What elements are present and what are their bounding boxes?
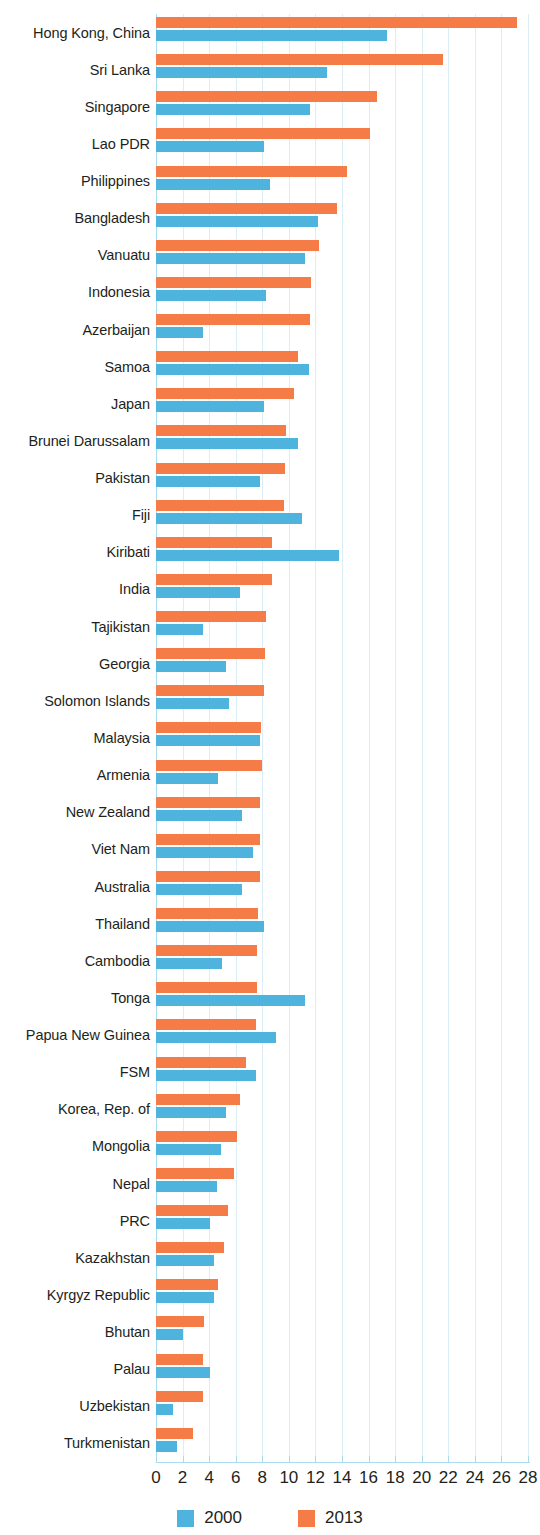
bar-2013 xyxy=(156,982,257,993)
x-tick-label: 10 xyxy=(279,1467,298,1489)
category-label: Vanuatu xyxy=(0,247,150,263)
bar-2013 xyxy=(156,91,377,102)
x-axis-line xyxy=(156,1462,530,1463)
category-label: Palau xyxy=(0,1361,150,1377)
category-label: Singapore xyxy=(0,99,150,115)
horizontal-bar-chart: Hong Kong, ChinaSri LankaSingaporeLao PD… xyxy=(0,0,540,1535)
bar-group xyxy=(156,719,528,756)
bar-2013 xyxy=(156,277,311,288)
x-tick-label: 22 xyxy=(439,1467,458,1489)
bar-group xyxy=(156,274,528,311)
bar-group xyxy=(156,348,528,385)
legend-swatch-2013-icon xyxy=(298,1510,315,1527)
bar-2013 xyxy=(156,685,264,696)
category-label: Kazakhstan xyxy=(0,1250,150,1266)
bar-group xyxy=(156,1091,528,1128)
bar-group xyxy=(156,868,528,905)
bar-group xyxy=(156,125,528,162)
bar-group xyxy=(156,1313,528,1350)
bar-2000 xyxy=(156,550,339,561)
bar-2000 xyxy=(156,698,229,709)
bar-2013 xyxy=(156,1242,224,1253)
bar-group xyxy=(156,385,528,422)
bar-group xyxy=(156,1016,528,1053)
bar-2013 xyxy=(156,1279,218,1290)
bar-2013 xyxy=(156,537,272,548)
bar-2000 xyxy=(156,1032,276,1043)
bar-2013 xyxy=(156,166,347,177)
bar-2013 xyxy=(156,1316,204,1327)
bar-2000 xyxy=(156,1367,210,1378)
category-label: Mongolia xyxy=(0,1138,150,1154)
bar-group xyxy=(156,1165,528,1202)
bar-2000 xyxy=(156,253,305,264)
category-axis-labels: Hong Kong, ChinaSri LankaSingaporeLao PD… xyxy=(0,14,150,1462)
category-label: Azerbaijan xyxy=(0,322,150,338)
bar-group xyxy=(156,88,528,125)
bar-group xyxy=(156,942,528,979)
category-label: Indonesia xyxy=(0,284,150,300)
category-label: Bangladesh xyxy=(0,210,150,226)
bar-2000 xyxy=(156,921,264,932)
bar-2013 xyxy=(156,1354,203,1365)
category-label: Brunei Darussalam xyxy=(0,433,150,449)
bar-2013 xyxy=(156,871,260,882)
bar-group xyxy=(156,311,528,348)
bar-2000 xyxy=(156,1329,183,1340)
category-label: Pakistan xyxy=(0,470,150,486)
bar-2000 xyxy=(156,513,302,524)
bar-2000 xyxy=(156,773,218,784)
bar-2000 xyxy=(156,30,387,41)
bar-2013 xyxy=(156,1094,240,1105)
category-label: Samoa xyxy=(0,359,150,375)
bar-2013 xyxy=(156,611,266,622)
bar-group xyxy=(156,645,528,682)
category-label: PRC xyxy=(0,1213,150,1229)
bar-group xyxy=(156,794,528,831)
category-label: Viet Nam xyxy=(0,841,150,857)
bar-group xyxy=(156,608,528,645)
bar-2000 xyxy=(156,1070,256,1081)
bar-group xyxy=(156,422,528,459)
bar-group xyxy=(156,1388,528,1425)
x-tick-label: 28 xyxy=(519,1467,538,1489)
bar-2013 xyxy=(156,722,261,733)
bar-2000 xyxy=(156,438,298,449)
category-label: Nepal xyxy=(0,1176,150,1192)
bar-group xyxy=(156,1202,528,1239)
bar-group xyxy=(156,831,528,868)
bar-rows xyxy=(156,14,528,1462)
legend-swatch-2000-icon xyxy=(177,1510,194,1527)
bar-2013 xyxy=(156,648,265,659)
x-tick-label: 8 xyxy=(258,1467,267,1489)
category-label: Australia xyxy=(0,879,150,895)
x-tick-label: 4 xyxy=(204,1467,213,1489)
bar-group xyxy=(156,1054,528,1091)
category-label: Japan xyxy=(0,396,150,412)
category-label: Philippines xyxy=(0,173,150,189)
bar-2013 xyxy=(156,500,284,511)
legend-item-2013: 2013 xyxy=(298,1508,363,1528)
x-tick-label: 14 xyxy=(333,1467,352,1489)
bar-group xyxy=(156,534,528,571)
bar-2000 xyxy=(156,67,327,78)
bar-2013 xyxy=(156,351,298,362)
bar-2000 xyxy=(156,1404,173,1415)
bar-2000 xyxy=(156,735,260,746)
bar-group xyxy=(156,1128,528,1165)
bar-2013 xyxy=(156,1428,193,1439)
category-label: Fiji xyxy=(0,507,150,523)
legend-label-2013: 2013 xyxy=(325,1508,363,1528)
category-label: Korea, Rep. of xyxy=(0,1101,150,1117)
bar-2013 xyxy=(156,1057,246,1068)
bar-group xyxy=(156,163,528,200)
legend-label-2000: 2000 xyxy=(204,1508,242,1528)
bar-2000 xyxy=(156,104,310,115)
bar-2013 xyxy=(156,834,260,845)
bar-2013 xyxy=(156,314,310,325)
category-label: FSM xyxy=(0,1064,150,1080)
bar-2000 xyxy=(156,1255,214,1266)
bar-2000 xyxy=(156,401,264,412)
bar-2013 xyxy=(156,1019,256,1030)
bar-2013 xyxy=(156,908,258,919)
